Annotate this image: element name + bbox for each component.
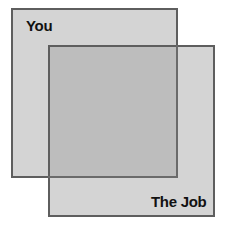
square-you-bottom-edge xyxy=(48,176,178,178)
label-the-job: The Job xyxy=(151,193,206,210)
overlap-region xyxy=(48,45,178,178)
square-you-right-edge xyxy=(176,45,178,178)
label-you: You xyxy=(26,17,52,34)
